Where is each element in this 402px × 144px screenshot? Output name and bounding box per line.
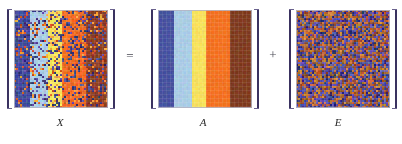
operator-plus: +: [265, 48, 281, 61]
matrix-canvas-A: [158, 10, 252, 108]
matrix-label-E: E: [318, 117, 358, 128]
bracket-stem: [257, 9, 259, 109]
bracket-foot-bottom: [289, 108, 294, 109]
matrix-canvas-E: [296, 10, 390, 108]
bracket-foot-bottom: [110, 108, 115, 109]
bracket-foot-top: [392, 9, 397, 10]
bracket-right-X: [110, 9, 116, 109]
bracket-left-A: [150, 9, 156, 109]
bracket-foot-top: [151, 9, 156, 10]
bracket-right-A: [254, 9, 260, 109]
matrix-canvas-X: [14, 10, 108, 108]
bracket-foot-bottom: [392, 108, 397, 109]
matrix-label-X: X: [40, 117, 80, 128]
bracket-left-X: [6, 9, 12, 109]
bracket-foot-bottom: [151, 108, 156, 109]
bracket-stem: [289, 9, 291, 109]
bracket-foot-top: [110, 9, 115, 10]
bracket-foot-top: [254, 9, 259, 10]
bracket-left-E: [288, 9, 294, 109]
matrix-label-A: A: [183, 117, 223, 128]
bracket-foot-bottom: [254, 108, 259, 109]
bracket-stem: [113, 9, 115, 109]
bracket-stem: [7, 9, 9, 109]
bracket-foot-bottom: [7, 108, 12, 109]
bracket-stem: [151, 9, 153, 109]
bracket-stem: [395, 9, 397, 109]
matrix-equation-figure: X = A + E: [0, 0, 402, 144]
bracket-right-E: [392, 9, 398, 109]
operator-equals: =: [122, 49, 138, 62]
bracket-foot-top: [7, 9, 12, 10]
bracket-foot-top: [289, 9, 294, 10]
